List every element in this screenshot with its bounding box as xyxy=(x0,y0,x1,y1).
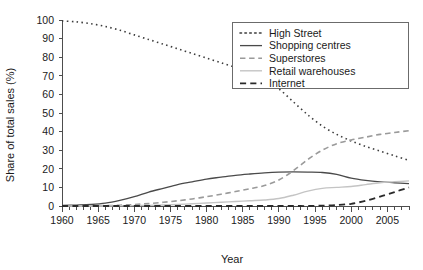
legend-label: Shopping centres xyxy=(269,39,351,51)
legend-label: Retail warehouses xyxy=(269,65,355,77)
x-tick-label: 1995 xyxy=(303,214,327,226)
x-tick-label: 1985 xyxy=(231,214,255,226)
x-tick-label: 2005 xyxy=(376,214,400,226)
x-tick-label: 1990 xyxy=(267,214,291,226)
y-tick-label: 50 xyxy=(42,107,54,119)
x-tick-label: 1980 xyxy=(195,214,219,226)
y-tick-label: 0 xyxy=(48,200,54,212)
line-chart: 0102030405060708090100 19601965197019751… xyxy=(0,0,423,270)
x-tick-label: 1965 xyxy=(86,214,110,226)
chart-legend: High StreetShopping centresSuperstoresRe… xyxy=(232,22,408,89)
y-tick-label: 30 xyxy=(42,144,54,156)
chart-container: 0102030405060708090100 19601965197019751… xyxy=(0,0,423,270)
legend-label: High Street xyxy=(269,27,322,39)
y-axis-title: Share of total sales (%) xyxy=(4,68,16,182)
y-tick-label: 60 xyxy=(42,88,54,100)
x-tick-label: 2000 xyxy=(339,214,363,226)
y-tick-label: 40 xyxy=(42,125,54,137)
legend-label: Superstores xyxy=(269,52,326,64)
y-tick-label: 100 xyxy=(36,14,54,26)
x-tick-label: 1960 xyxy=(50,214,74,226)
y-tick-label: 70 xyxy=(42,70,54,82)
y-tick-label: 90 xyxy=(42,32,54,44)
y-tick-label: 80 xyxy=(42,51,54,63)
y-tick-label: 20 xyxy=(42,163,54,175)
x-tick-label: 1970 xyxy=(123,214,147,226)
x-tick-label: 1975 xyxy=(159,214,183,226)
legend-label: Internet xyxy=(269,77,305,89)
y-tick-label: 10 xyxy=(42,181,54,193)
x-axis-title: Year xyxy=(221,253,244,265)
